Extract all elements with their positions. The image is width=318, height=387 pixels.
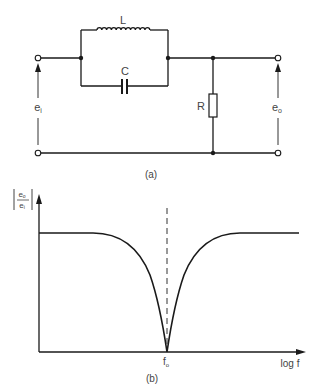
inductor-icon: [97, 28, 150, 30]
resistor-icon: [209, 94, 217, 117]
y-axis-label: eo ei: [14, 189, 32, 210]
junction-node: [211, 56, 215, 60]
input-terminal-bottom: [35, 150, 41, 156]
junction-node: [211, 151, 215, 155]
junction-node: [166, 56, 170, 60]
capacitor-label: C: [121, 65, 129, 77]
caption-b: (b): [146, 373, 158, 384]
svg-text:ei: ei: [19, 201, 25, 210]
output-terminal-bottom: [275, 150, 281, 156]
figure-root: L C R ei: [0, 0, 318, 387]
capacitor-icon: [122, 79, 127, 94]
output-voltage-label: eo: [272, 101, 282, 114]
x-axis-arrow-icon: [296, 349, 306, 355]
output-terminal-top: [275, 55, 281, 61]
input-voltage-label: ei: [34, 101, 42, 114]
resistor-label: R: [197, 100, 205, 112]
svg-text:eo: eo: [18, 190, 25, 199]
caption-a: (a): [145, 169, 157, 180]
response-curve: [39, 233, 299, 352]
input-terminal-top: [35, 55, 41, 61]
resonance-frequency-label: fo: [163, 356, 170, 368]
circuit-diagram: L C R ei: [34, 14, 282, 180]
frequency-response-chart: eo ei fo log f (b): [14, 189, 306, 384]
x-axis-label: log f: [281, 358, 300, 369]
inductor-label: L: [120, 14, 126, 26]
junction-node: [79, 56, 83, 60]
y-axis-arrow-icon: [36, 194, 42, 204]
